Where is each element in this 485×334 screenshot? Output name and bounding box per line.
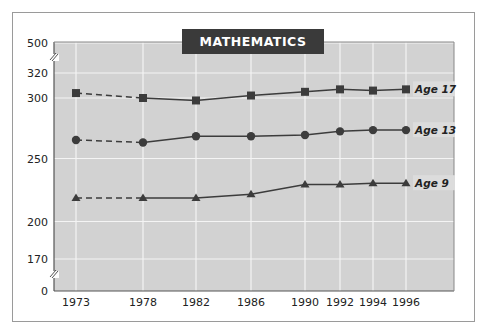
x-tick-label: 1973 <box>62 296 90 309</box>
circle-marker <box>72 136 80 144</box>
square-marker <box>336 85 344 93</box>
x-tick-label: 1992 <box>326 296 354 309</box>
plot-area <box>54 42 454 291</box>
circle-marker <box>247 132 255 140</box>
circle-marker <box>336 127 344 135</box>
y-tick-label: 250 <box>27 153 48 166</box>
square-marker <box>301 88 309 96</box>
x-tick-label: 1990 <box>291 296 319 309</box>
y-tick-label: 320 <box>27 67 48 80</box>
series-label: Age 13 <box>414 124 456 136</box>
circle-marker <box>139 138 147 146</box>
title-box: MATHEMATICS <box>182 29 324 54</box>
circle-marker <box>402 126 410 134</box>
y-tick-label: 200 <box>27 216 48 229</box>
square-marker <box>72 89 80 97</box>
x-tick-label: 1994 <box>359 296 387 309</box>
y-tick-label: 0 <box>41 285 48 298</box>
y-tick-labels: 5003203002502001700 <box>27 37 48 298</box>
square-marker <box>139 94 147 102</box>
square-marker <box>192 96 200 104</box>
square-marker <box>369 87 377 95</box>
circle-marker <box>192 132 200 140</box>
axis-break-top-icon <box>49 53 59 61</box>
series-label: Age 9 <box>414 177 449 189</box>
x-tick-label: 1982 <box>182 296 210 309</box>
circle-marker <box>369 126 377 134</box>
square-marker <box>402 85 410 93</box>
chart-title: MATHEMATICS <box>200 34 307 49</box>
x-tick-label: 1978 <box>129 296 157 309</box>
square-marker <box>247 92 255 100</box>
series-label: Age 17 <box>414 83 457 95</box>
y-tick-label: 300 <box>27 92 48 105</box>
y-tick-label: 170 <box>27 253 48 266</box>
circle-marker <box>301 131 309 139</box>
x-tick-label: 1986 <box>237 296 265 309</box>
axis-break-bottom-icon <box>49 270 59 278</box>
x-tick-labels: 19731978198219861990199219941996 <box>62 296 420 309</box>
chart-svg: 5003203002502001700 19731978198219861990… <box>0 0 485 334</box>
y-tick-label: 500 <box>27 37 48 50</box>
x-tick-label: 1996 <box>392 296 420 309</box>
